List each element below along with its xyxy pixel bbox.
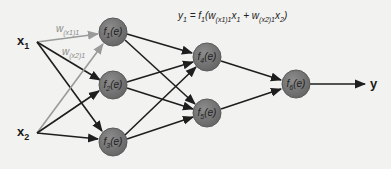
edge-f5-f6 [221,89,281,109]
edge-x2-f2 [37,91,99,133]
activation-formula: y1 = f1(w(x1)1x1 + w(x2)1x2) [178,10,287,23]
node-f6-label: f6(e) [282,70,310,98]
input-x2-label: x2 [17,124,29,142]
edge-x2-f3 [37,133,98,139]
edge-f3-f5 [127,117,193,139]
edge-f2-f5 [127,88,193,109]
node-f3-label: f3(e) [99,128,127,156]
hidden-edges [125,34,365,139]
node-f5-label: f5(e) [193,99,221,127]
neural-network-diagram: y1 = f1(w(x1)1x1 + w(x2)1x2) x1 x2 w(x1)… [0,0,391,169]
weight-x2-1-label: w(x2)1 [62,46,85,59]
nodes [99,18,310,156]
weight-x1-1-label: w(x1)1 [56,23,79,36]
output-y-label: y [370,76,377,91]
node-f2-label: f2(e) [99,71,127,99]
edge-f4-f6 [221,61,281,80]
edge-f3-f4 [125,67,196,135]
input-x1-label: x1 [17,33,29,51]
node-f1-label: f1(e) [99,18,127,46]
node-f4-label: f4(e) [193,43,221,71]
